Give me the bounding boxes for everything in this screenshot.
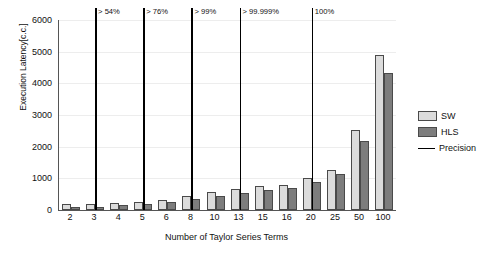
x-axis-label: Number of Taylor Series Terms [58,232,395,242]
x-tick-label: 13 [227,212,251,222]
x-tick-label: 50 [347,212,371,222]
bar-sw-5 [134,202,143,210]
bar-sw-25 [327,170,336,210]
bar-sw-100 [375,55,384,210]
precision-label-5: > 76% [143,7,168,16]
x-tick-label: 20 [299,212,323,222]
chart-legend: SWHLSPrecision [418,108,476,156]
bar-group [324,20,348,210]
precision-line-20 [312,8,314,210]
bar-hls-15 [264,190,273,210]
y-axis-ticks: 0100020003000400050006000 [10,0,52,275]
bar-hls-16 [288,188,297,210]
legend-swatch-icon [418,111,437,121]
y-tick-label: 2000 [10,142,52,152]
precision-label-8: > 99% [191,7,216,16]
bar-sw-13 [231,189,240,210]
bar-hls-25 [336,174,345,210]
legend-item-sw: SW [418,108,476,124]
bar-sw-4 [110,203,119,210]
bar-group [348,20,372,210]
bar-group [276,20,300,210]
x-tick-label: 10 [202,212,226,222]
legend-label: HLS [441,127,459,137]
bar-sw-3 [86,204,95,210]
precision-line-13 [240,8,242,210]
bar-sw-2 [62,204,71,210]
plot-area: > 54%> 76%> 99%> 99.999%100% [58,20,396,211]
bar-hls-2 [71,207,80,210]
bar-sw-20 [303,178,312,210]
y-tick-label: 5000 [10,47,52,57]
chart-figure: Execution Latency[c.c.] 0100020003000400… [0,0,496,275]
x-tick-label: 25 [323,212,347,222]
bar-groups [59,20,396,210]
legend-item-hls: HLS [418,124,476,140]
precision-line-8 [191,8,193,210]
x-tick-label: 100 [371,212,395,222]
bar-group [59,20,83,210]
legend-label: SW [441,111,456,121]
legend-item-precision: Precision [418,140,476,156]
y-tick-label: 4000 [10,78,52,88]
bar-hls-100 [384,73,393,210]
legend-label: Precision [439,143,476,153]
bar-hls-6 [167,202,176,210]
x-tick-label: 3 [82,212,106,222]
bar-sw-15 [255,186,264,210]
x-tick-label: 8 [178,212,202,222]
legend-swatch-icon [418,127,437,137]
bar-sw-6 [158,200,167,210]
bar-sw-8 [182,196,191,210]
x-tick-label: 6 [154,212,178,222]
legend-swatch-icon [418,148,435,149]
y-tick-label: 3000 [10,110,52,120]
precision-label-13: > 99.999% [240,7,280,16]
bar-group [107,20,131,210]
precision-line-3 [95,8,97,210]
y-tick-label: 1000 [10,173,52,183]
x-tick-label: 4 [106,212,130,222]
precision-line-5 [143,8,145,210]
x-axis-ticks: 23456810131516202550100 [58,212,395,222]
x-tick-label: 16 [275,212,299,222]
x-tick-label: 5 [130,212,154,222]
bar-sw-16 [279,185,288,210]
bar-group [155,20,179,210]
bar-hls-50 [360,141,369,210]
bar-hls-4 [119,205,128,210]
x-tick-label: 2 [58,212,82,222]
y-tick-label: 0 [10,205,52,215]
bar-group [203,20,227,210]
bar-group [372,20,396,210]
bar-sw-50 [351,130,360,210]
precision-label-20: 100% [312,7,334,16]
precision-label-3: > 54% [95,7,120,16]
x-tick-label: 15 [251,212,275,222]
bar-group [252,20,276,210]
bar-sw-10 [207,192,216,210]
y-tick-label: 6000 [10,15,52,25]
bar-hls-10 [216,196,225,210]
